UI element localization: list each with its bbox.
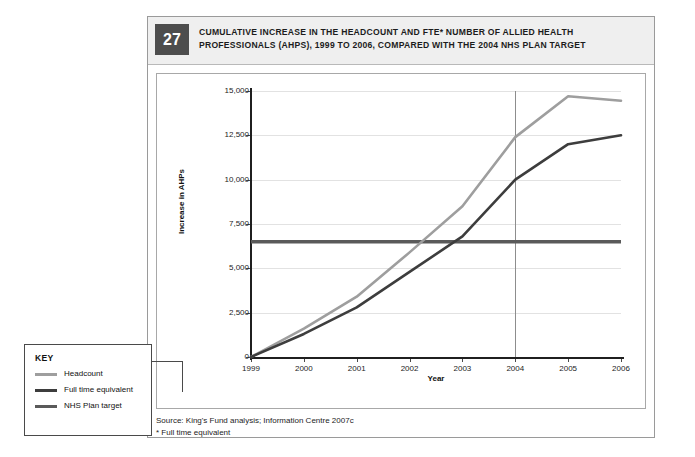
y-tick-label: 7,500 — [189, 219, 249, 228]
key-swatch-fte — [35, 389, 57, 393]
plot-area: 02,5005,0007,50010,00012,50015,000 19992… — [251, 91, 621, 357]
x-tick-label: 2005 — [546, 364, 590, 373]
key-label-fte: Full time equivalent — [64, 385, 133, 396]
y-axis-label: Increase in AHPs — [177, 169, 186, 234]
key-swatch-nhs-plan-target — [35, 405, 57, 409]
x-tick-label: 2002 — [388, 364, 432, 373]
chart-plate: Increase in AHPs Year 02,5005,0007,50010… — [156, 73, 646, 409]
x-tick-label: 1999 — [229, 364, 273, 373]
source-line: Source: King's Fund analysis; Informatio… — [156, 415, 646, 427]
key-connector-vertical — [182, 361, 183, 392]
x-axis-line — [250, 357, 624, 359]
x-tick-label: 2001 — [335, 364, 379, 373]
figure-number-badge: 27 — [155, 24, 189, 55]
y-tick-label: 12,500 — [189, 130, 249, 139]
y-tick-label: 5,000 — [189, 263, 249, 272]
key-legend-box: KEY Headcount Full time equivalent NHS P… — [24, 344, 152, 436]
source-note: Source: King's Fund analysis; Informatio… — [156, 415, 646, 440]
x-tick-label: 2006 — [599, 364, 643, 373]
y-tick-label: 2,500 — [189, 308, 249, 317]
key-item-nhs-plan-target: NHS Plan target — [35, 401, 151, 412]
key-label-headcount: Headcount — [64, 369, 103, 380]
key-item-fte: Full time equivalent — [35, 385, 151, 396]
key-label-nhs-plan-target: NHS Plan target — [64, 401, 122, 412]
fte-line — [251, 135, 621, 357]
x-axis-label: Year — [251, 374, 621, 383]
y-tick-label: 0 — [189, 352, 249, 361]
key-swatch-headcount — [35, 373, 57, 376]
key-item-headcount: Headcount — [35, 369, 151, 380]
figure-title: CUMULATIVE INCREASE IN THE HEADCOUNT AND… — [199, 26, 644, 52]
x-tick-label: 2003 — [440, 364, 484, 373]
key-title: KEY — [35, 353, 151, 363]
y-tick-label: 15,000 — [189, 86, 249, 95]
x-tick-label: 2004 — [493, 364, 537, 373]
y-tick-label: 10,000 — [189, 175, 249, 184]
figure-container: 27 CUMULATIVE INCREASE IN THE HEADCOUNT … — [147, 16, 655, 438]
series-lines — [251, 91, 621, 357]
figure-header: 27 CUMULATIVE INCREASE IN THE HEADCOUNT … — [148, 17, 654, 65]
headcount-line — [251, 96, 621, 357]
footnote-line: * Full time equivalent — [156, 427, 646, 439]
key-connector-horizontal — [151, 361, 183, 362]
x-tick-label: 2000 — [282, 364, 326, 373]
